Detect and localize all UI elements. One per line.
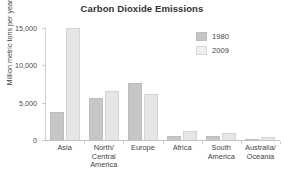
bar[interactable] — [167, 136, 181, 140]
chart-legend: 1980 2009 — [196, 31, 229, 59]
bar[interactable] — [261, 137, 275, 140]
y-tick-mark: 10,000 — [42, 65, 45, 66]
co2-emissions-bar-chart: Carbon Dioxide Emissions Million metric … — [0, 0, 284, 170]
legend-label-2009: 2009 — [212, 46, 229, 55]
bar[interactable] — [183, 131, 197, 140]
y-tick-label: 5,000 — [19, 98, 37, 107]
bar[interactable] — [128, 83, 142, 140]
x-category-label-line: America — [81, 161, 127, 170]
chart-title: Carbon Dioxide Emissions — [0, 3, 284, 14]
bar-group — [48, 28, 82, 140]
legend-label-1980: 1980 — [212, 32, 229, 41]
bar-group — [87, 28, 121, 140]
legend-swatch-icon-2009 — [196, 46, 207, 55]
plot-area: 05,00010,00015,000 — [45, 28, 280, 141]
y-tick-mark: 0 — [42, 140, 45, 141]
bar[interactable] — [89, 98, 103, 140]
y-tick-label: 0 — [33, 136, 37, 145]
bar-group — [126, 28, 160, 140]
bar[interactable] — [66, 28, 80, 140]
y-tick-label: 15,000 — [15, 24, 37, 33]
bar[interactable] — [222, 133, 236, 140]
bar[interactable] — [245, 139, 259, 140]
y-tick-mark: 5,000 — [42, 103, 45, 104]
y-axis-title: Million metric tons per year — [5, 0, 14, 98]
x-category-label: Australia/Oceania — [237, 144, 283, 161]
legend-item-2009[interactable]: 2009 — [196, 45, 229, 56]
legend-item-1980[interactable]: 1980 — [196, 31, 229, 42]
x-category-label-line: Oceania — [237, 153, 283, 162]
bar-group — [243, 28, 277, 140]
bar-group — [165, 28, 199, 140]
y-tick-label: 10,000 — [15, 61, 37, 70]
bar[interactable] — [50, 112, 64, 140]
y-axis-line — [45, 28, 46, 141]
legend-swatch-icon-1980 — [196, 32, 207, 41]
bar[interactable] — [105, 91, 119, 140]
bar[interactable] — [206, 136, 220, 140]
y-tick-mark: 15,000 — [42, 28, 45, 29]
bar[interactable] — [144, 94, 158, 140]
